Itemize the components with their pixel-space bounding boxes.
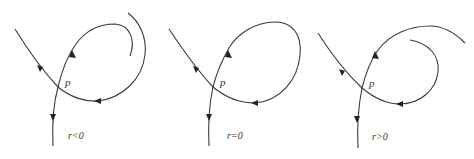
arrow-up-icon xyxy=(372,51,379,59)
point-label-p: p xyxy=(368,77,375,89)
panel-r-less-than-zero: p r<0 xyxy=(15,13,145,146)
panel-r-greater-than-zero: p r>0 xyxy=(318,26,465,148)
condition-label: r>0 xyxy=(372,131,388,142)
arrow-down-icon xyxy=(354,116,360,123)
arrow-down-icon xyxy=(206,114,212,121)
incoming-stable-curve xyxy=(169,29,213,87)
homoclinic-loop-curve xyxy=(213,22,300,103)
arrow-left-icon xyxy=(396,101,403,107)
arrow-left-icon xyxy=(94,98,101,104)
condition-label: r<0 xyxy=(68,130,84,141)
panel-r-equals-zero: p r=0 xyxy=(169,22,300,146)
point-label-p: p xyxy=(219,76,226,88)
stable-manifold-curve xyxy=(318,33,438,104)
point-label-p: p xyxy=(64,76,71,88)
arrow-down-right-icon xyxy=(339,69,345,76)
bifurcation-diagram: p r<0 p r=0 p r>0 xyxy=(0,0,474,159)
arrow-down-icon xyxy=(50,114,56,121)
condition-label: r=0 xyxy=(227,130,243,141)
stable-manifold-curve xyxy=(15,13,145,101)
arrow-left-icon xyxy=(251,100,258,106)
arrow-down-right-icon xyxy=(37,65,43,72)
